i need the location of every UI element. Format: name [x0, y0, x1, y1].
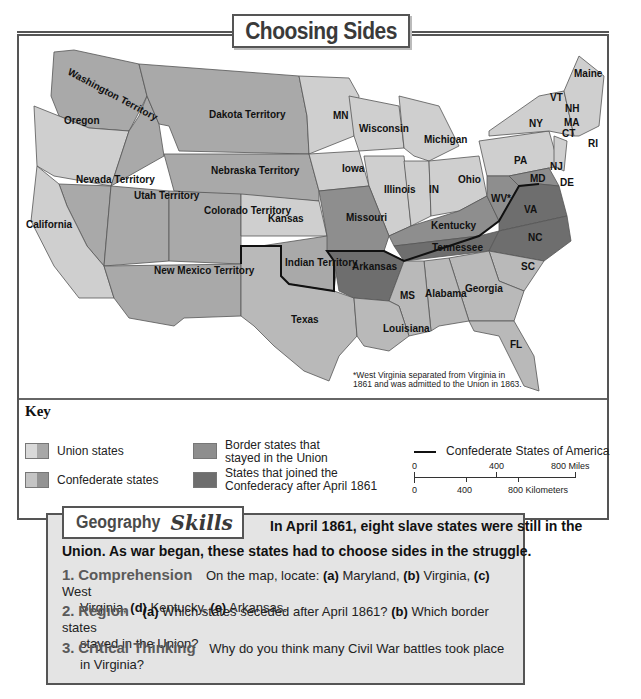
q1-b: (b): [403, 568, 420, 583]
skills-tab-geography: Geography: [76, 513, 160, 533]
us-map-1861: Washington Territory Oregon Dakota Terri…: [19, 36, 607, 398]
label-mn: MN: [333, 110, 349, 121]
label-nevada: Nevada Territory: [76, 174, 155, 185]
label-md: MD: [530, 173, 546, 184]
label-de: DE: [560, 177, 574, 188]
label-oregon: Oregon: [64, 115, 100, 126]
label-michigan: Michigan: [424, 134, 467, 145]
question-3-heading: Critical Thinking: [78, 639, 196, 656]
label-california: California: [26, 219, 73, 230]
title-rule-right: [406, 31, 609, 33]
label-ny: NY: [529, 118, 543, 129]
skills-intro-line1: In April 1861, eight slave states were s…: [270, 518, 582, 534]
label-alabama: Alabama: [425, 288, 467, 299]
skills-intro-line2: Union. As war began, these states had to…: [62, 543, 531, 559]
footnote-line-2: 1861 and was admitted to the Union in 18…: [353, 379, 522, 389]
label-ma: MA: [564, 117, 580, 128]
question-1-heading: Comprehension: [78, 566, 192, 583]
key-label-border: Border states that stayed in the Union: [225, 439, 328, 465]
label-georgia: Georgia: [465, 283, 503, 294]
label-fl: FL: [510, 339, 522, 350]
scale-miles-800: 800 Miles: [551, 461, 590, 471]
swatch-union: [25, 443, 49, 459]
q2-a-text: Which states seceded after April 1861?: [159, 604, 392, 619]
scale-km-800: 800 Kilometers: [508, 485, 568, 495]
csa-line-swatch: [414, 451, 436, 453]
label-new-mexico: New Mexico Territory: [154, 265, 255, 276]
label-maine: Maine: [574, 68, 603, 79]
label-in: IN: [429, 184, 439, 195]
label-ms: MS: [400, 290, 415, 301]
label-ohio: Ohio: [458, 174, 481, 185]
key-label-csa: Confederate States of America: [446, 445, 609, 458]
map-title: Choosing Sides: [245, 17, 397, 45]
label-wv: WV*: [491, 193, 511, 204]
swatch-confederate: [25, 472, 49, 488]
question-3-number: 3.: [62, 639, 75, 656]
map-title-box: Choosing Sides: [232, 14, 410, 48]
label-ct: CT: [562, 128, 575, 139]
title-rule-left: [17, 31, 232, 33]
key-label-joined-line2: Confederacy after April 1861: [225, 480, 377, 493]
label-missouri: Missouri: [346, 212, 387, 223]
question-1-number: 1.: [62, 566, 75, 583]
label-kansas: Kansas: [268, 213, 304, 224]
q1-a-text: Maryland,: [339, 568, 403, 583]
key-label-union: Union states: [57, 445, 124, 458]
question-2-number: 2.: [62, 602, 75, 619]
scale-bar: 0 400 800 Miles 0 400 800 Kilometers: [412, 466, 582, 496]
scale-km-0: 0: [412, 485, 417, 495]
question-3: 3. Critical Thinking Why do you think ma…: [62, 640, 522, 673]
key-label-border-line2: stayed in the Union: [225, 452, 328, 465]
scale-km-400: 400: [457, 485, 472, 495]
label-iowa: Iowa: [342, 163, 365, 174]
q1-c: (c): [474, 568, 490, 583]
q2-a: (a): [143, 604, 159, 619]
q3-line2: in Virginia?: [62, 657, 522, 673]
region-mn: [299, 76, 359, 154]
label-wisconsin: Wisconsin: [359, 123, 409, 134]
label-vt: VT: [550, 92, 563, 103]
question-2-heading: Region: [78, 602, 129, 619]
label-utah: Utah Territory: [134, 190, 200, 201]
scale-miles-0: 0: [412, 461, 417, 471]
q3-line1: Why do you think many Civil War battles …: [209, 641, 504, 656]
key-label-joined-after: States that joined the Confederacy after…: [225, 467, 377, 493]
question-1-text: On the map, locate:: [206, 568, 319, 583]
label-dakota: Dakota Territory: [209, 109, 286, 120]
q1-b-text: Virginia,: [420, 568, 474, 583]
label-va: VA: [524, 204, 537, 215]
label-indian: Indian Territory: [285, 257, 358, 268]
scale-miles-400: 400: [489, 461, 504, 471]
key-label-confederate: Confederate states: [57, 474, 158, 487]
geography-skills-tab: Geography Skills: [62, 506, 244, 539]
label-tennessee: Tennessee: [432, 242, 483, 253]
q1-a: (a): [323, 568, 339, 583]
label-louisiana: Louisiana: [383, 323, 430, 334]
q1-c-text: West: [62, 584, 91, 599]
label-pa: PA: [514, 155, 527, 166]
label-illinois: Illinois: [384, 184, 416, 195]
label-texas: Texas: [291, 314, 319, 325]
key-title: Key: [25, 403, 51, 420]
label-kentucky: Kentucky: [431, 220, 476, 231]
label-nh: NH: [565, 103, 579, 114]
swatch-border-union: [193, 443, 217, 459]
q2-b: (b): [391, 604, 408, 619]
region-colorado: [169, 191, 241, 264]
label-nebraska: Nebraska Territory: [211, 165, 300, 176]
label-nj: NJ: [550, 161, 563, 172]
label-ri: RI: [588, 138, 598, 149]
label-nc: NC: [528, 232, 542, 243]
label-arkansas: Arkansas: [352, 261, 397, 272]
skills-tab-skills: Skills: [170, 511, 232, 535]
key-divider: [19, 398, 607, 400]
label-sc: SC: [521, 261, 535, 272]
swatch-joined-after: [193, 472, 217, 488]
